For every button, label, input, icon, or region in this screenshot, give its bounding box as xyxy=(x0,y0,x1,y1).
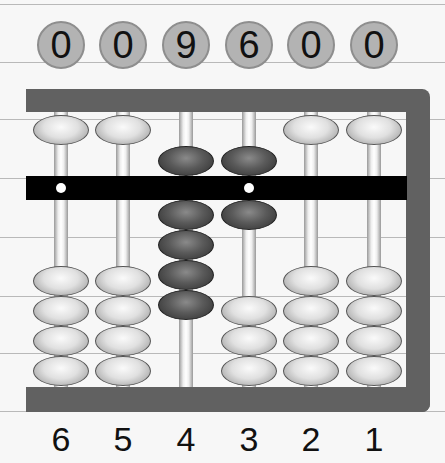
digit-col-5: 0 xyxy=(99,21,147,69)
earth-bead-col-6[interactable] xyxy=(33,356,89,386)
earth-bead-col-5[interactable] xyxy=(95,266,151,296)
earth-bead-col-2[interactable] xyxy=(283,266,339,296)
earth-bead-col-4-active[interactable] xyxy=(158,290,214,320)
earth-bead-col-1[interactable] xyxy=(346,356,402,386)
earth-bead-col-3[interactable] xyxy=(221,326,277,356)
column-label: 5 xyxy=(103,420,143,459)
earth-bead-col-6[interactable] xyxy=(33,296,89,326)
heaven-bead-col-1[interactable] xyxy=(346,115,402,145)
earth-bead-col-2[interactable] xyxy=(283,296,339,326)
digit-col-4: 9 xyxy=(162,21,210,69)
earth-bead-col-3[interactable] xyxy=(221,356,277,386)
earth-bead-col-3-active[interactable] xyxy=(221,200,277,230)
heaven-bead-col-3-active[interactable] xyxy=(221,146,277,176)
column-label: 3 xyxy=(229,420,269,459)
earth-bead-col-6[interactable] xyxy=(33,266,89,296)
earth-bead-col-2[interactable] xyxy=(283,356,339,386)
earth-bead-col-4-active[interactable] xyxy=(158,260,214,290)
heaven-bead-col-5[interactable] xyxy=(95,115,151,145)
column-label: 4 xyxy=(166,420,206,459)
ruled-line xyxy=(0,4,445,5)
heaven-bead-col-6[interactable] xyxy=(33,115,89,145)
earth-bead-col-1[interactable] xyxy=(346,326,402,356)
earth-bead-col-5[interactable] xyxy=(95,356,151,386)
unit-dot-col-3 xyxy=(244,183,254,193)
earth-bead-col-1[interactable] xyxy=(346,296,402,326)
digit-col-1: 0 xyxy=(350,21,398,69)
earth-bead-col-2[interactable] xyxy=(283,326,339,356)
digit-col-6: 0 xyxy=(37,21,85,69)
column-label: 6 xyxy=(41,420,81,459)
unit-dot-col-6 xyxy=(56,183,66,193)
abacus-frame-bottom xyxy=(26,387,430,412)
column-label: 2 xyxy=(291,420,331,459)
abacus-frame-top xyxy=(26,89,426,112)
earth-bead-col-3[interactable] xyxy=(221,296,277,326)
earth-bead-col-4-active[interactable] xyxy=(158,230,214,260)
earth-bead-col-6[interactable] xyxy=(33,326,89,356)
heaven-bead-col-2[interactable] xyxy=(283,115,339,145)
heaven-bead-col-4-active[interactable] xyxy=(158,146,214,176)
abacus-frame-right xyxy=(406,89,430,412)
digit-col-2: 0 xyxy=(287,21,335,69)
earth-bead-col-5[interactable] xyxy=(95,296,151,326)
digit-col-3: 6 xyxy=(225,21,273,69)
column-label: 1 xyxy=(354,420,394,459)
earth-bead-col-1[interactable] xyxy=(346,266,402,296)
reckoning-bar xyxy=(26,176,407,200)
earth-bead-col-4-active[interactable] xyxy=(158,200,214,230)
earth-bead-col-5[interactable] xyxy=(95,326,151,356)
